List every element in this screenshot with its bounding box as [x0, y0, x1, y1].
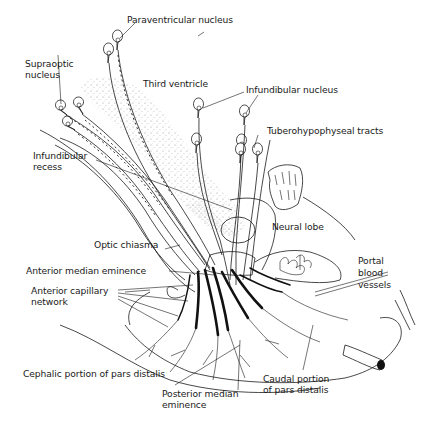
cut-vessel: [343, 345, 385, 370]
hypophyseal-portal-diagram: Paraventricular nucleus Supraoptic nucle…: [0, 0, 424, 427]
label-infundibular-nucleus: Infundibular nucleus: [246, 84, 338, 95]
label-caudal-portion: Caudal portion of pars distalis: [263, 373, 329, 395]
third-ventricle-stipple: [80, 77, 245, 236]
portal-blood-vessels-drawing: [135, 268, 348, 380]
label-cephalic-portion: Cephalic portion of pars distalis: [23, 368, 165, 379]
label-anterior-median-eminence: Anterior median eminence: [26, 265, 146, 276]
label-portal-blood-vessels: Portal blood vessels: [358, 255, 391, 291]
label-optic-chiasma: Optic chiasma: [94, 239, 158, 250]
label-neural-lobe: Neural lobe: [272, 221, 324, 232]
label-tuberohypophyseal-tracts: Tuberohypophyseal tracts: [267, 125, 383, 136]
label-anterior-capillary-network: Anterior capillary network: [31, 285, 108, 307]
label-infundibular-recess: Infundibular recess: [33, 150, 87, 172]
label-paraventricular-nucleus: Paraventricular nucleus: [127, 14, 233, 25]
label-posterior-median-eminence: Posterior median eminence: [162, 388, 238, 410]
label-third-ventricle: Third ventricle: [143, 78, 208, 89]
label-supraoptic-nucleus: Supraoptic nucleus: [25, 58, 74, 80]
